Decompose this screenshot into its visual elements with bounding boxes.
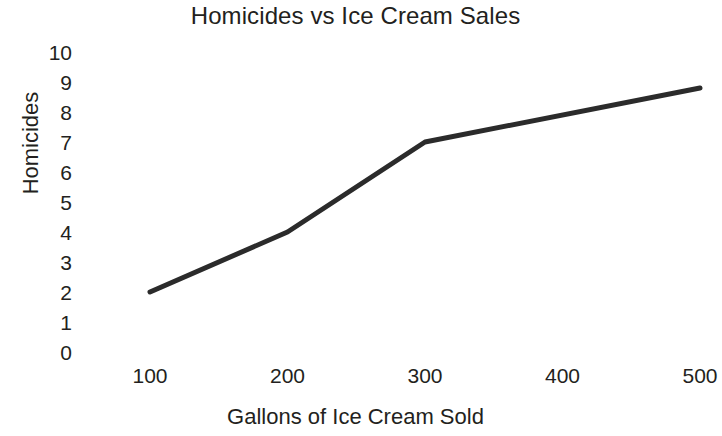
data-series-line — [150, 88, 700, 292]
